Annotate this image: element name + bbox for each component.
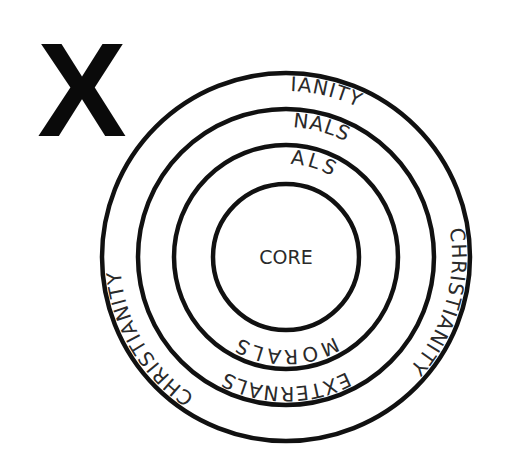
svg-text:CHRISTIANITY: CHRISTIANITY: [405, 226, 471, 380]
svg-text:EXTERNALS: EXTERNALS: [217, 368, 355, 406]
concentric-diagram: X CORE CHRISTIANITY CHRISTIANITY CHRISTI…: [0, 0, 508, 458]
externals-label-bottom: EXTERNALS: [217, 368, 355, 406]
x-marker: X: [37, 15, 126, 164]
christianity-label-left: CHRISTIANITY: [102, 270, 198, 411]
christianity-label-right: CHRISTIANITY: [405, 226, 471, 380]
svg-text:CHRISTIANITY: CHRISTIANITY: [102, 270, 198, 411]
core-label: CORE: [259, 246, 312, 268]
